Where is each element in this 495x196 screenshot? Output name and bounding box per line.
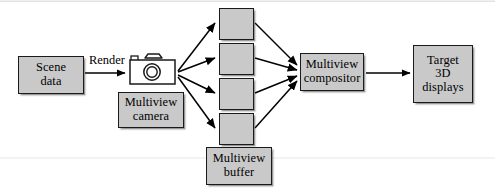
target-3d-displays-box[interactable]: Target 3D displays <box>413 45 473 103</box>
buffer-tile-3[interactable] <box>219 78 254 110</box>
multiview-compositor-label-line1: Multiview <box>304 58 361 72</box>
buffer-tile-1[interactable] <box>219 8 254 40</box>
arrow-tile-3-to-compositor <box>255 76 297 93</box>
arrow-tile-4-to-compositor <box>255 81 297 128</box>
multiview-camera-label-line1: Multiview <box>125 96 178 110</box>
arrow-camera-to-tile-1 <box>178 23 215 71</box>
arrow-tile-1-to-compositor <box>255 23 297 65</box>
multiview-buffer-box[interactable]: Multiview buffer <box>206 147 272 185</box>
scene-data-label-line1: Scene <box>36 61 66 75</box>
target-displays-label-line1: Target <box>422 54 463 68</box>
target-displays-label-line3: displays <box>422 81 463 95</box>
render-edge-label: Render <box>89 54 125 68</box>
buffer-tile-2[interactable] <box>219 43 254 75</box>
scene-data-box[interactable]: Scene data <box>18 56 84 94</box>
multiview-pipeline-diagram: Scene data Multiview camera Multiview bu… <box>0 0 495 196</box>
buffer-tile-4[interactable] <box>219 113 254 145</box>
camera-icon <box>128 51 178 87</box>
arrow-tile-2-to-compositor <box>255 58 297 70</box>
multiview-compositor-label-line2: compositor <box>304 72 361 86</box>
multiview-buffer-label-line1: Multiview <box>213 152 266 166</box>
multiview-camera-label-line2: camera <box>125 110 178 124</box>
multiview-buffer-label-line2: buffer <box>213 166 266 180</box>
multiview-compositor-box[interactable]: Multiview compositor <box>300 53 364 91</box>
target-displays-label-line2: 3D <box>422 67 463 81</box>
scene-data-label-line2: data <box>36 75 66 89</box>
multiview-camera-box[interactable]: Multiview camera <box>118 92 184 128</box>
